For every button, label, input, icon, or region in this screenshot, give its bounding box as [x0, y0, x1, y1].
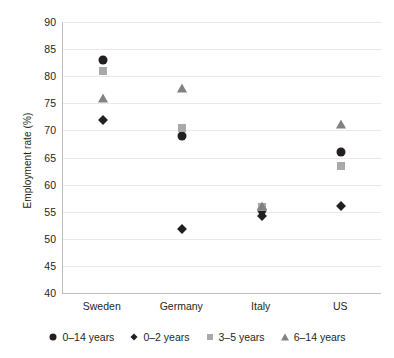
legend-label: 3–5 years — [219, 331, 265, 343]
data-point — [337, 148, 346, 157]
data-point — [178, 131, 187, 140]
legend-item[interactable]: 3–5 years — [205, 331, 265, 343]
square-marker-icon — [205, 332, 215, 342]
gridline — [63, 49, 381, 50]
gridline — [63, 185, 381, 186]
data-point — [257, 202, 267, 211]
y-tick-label: 40 — [44, 287, 56, 299]
y-tick-label: 65 — [44, 152, 56, 164]
gridline — [63, 266, 381, 267]
gridline — [63, 239, 381, 240]
x-axis-ticks: SwedenGermanyItalyUS — [62, 300, 380, 318]
x-tick-label-sweden: Sweden — [83, 300, 121, 312]
chart-legend: 0–14 years0–2 years3–5 years6–14 years — [0, 331, 394, 343]
data-point — [99, 67, 107, 75]
y-tick-label: 60 — [44, 179, 56, 191]
legend-label: 0–14 years — [62, 331, 114, 343]
legend-label: 6–14 years — [294, 331, 346, 343]
legend-item[interactable]: 0–2 years — [129, 331, 189, 343]
x-tick-label-italy: Italy — [251, 300, 270, 312]
y-tick-label: 70 — [44, 124, 56, 136]
legend-item[interactable]: 0–14 years — [48, 331, 114, 343]
gridline — [63, 130, 381, 131]
data-point — [336, 201, 346, 211]
y-axis-title: Employment rate (%) — [22, 61, 33, 261]
diamond-marker-icon — [129, 332, 139, 342]
gridline — [63, 103, 381, 104]
y-tick-label: 85 — [44, 43, 56, 55]
legend-item[interactable]: 6–14 years — [280, 331, 346, 343]
y-tick-label: 55 — [44, 206, 56, 218]
y-tick-label: 90 — [44, 16, 56, 28]
x-tick-label-us: US — [333, 300, 348, 312]
y-tick-label: 75 — [44, 97, 56, 109]
circle-marker-icon — [48, 332, 58, 342]
y-tick-label: 50 — [44, 233, 56, 245]
y-tick-label: 45 — [44, 260, 56, 272]
data-point — [177, 224, 187, 234]
data-point — [98, 93, 108, 102]
data-point — [337, 162, 345, 170]
legend-label: 0–2 years — [143, 331, 189, 343]
gridline — [63, 76, 381, 77]
data-point — [177, 84, 187, 93]
gridline — [63, 22, 381, 23]
triangle-marker-icon — [280, 332, 290, 342]
data-point — [98, 115, 108, 125]
y-tick-label: 80 — [44, 70, 56, 82]
plot-area: 9085807570656055504540 — [62, 22, 381, 294]
x-tick-label-germany: Germany — [160, 300, 203, 312]
scatter-chart: Employment rate (%) 90858075706560555045… — [0, 0, 394, 358]
data-point — [178, 124, 186, 132]
data-point — [98, 55, 107, 64]
gridline — [63, 158, 381, 159]
data-point — [336, 119, 346, 128]
gridline — [63, 212, 381, 213]
